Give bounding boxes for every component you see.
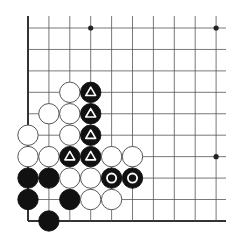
hoshi-dot-icon bbox=[88, 25, 93, 30]
black-stone-disc bbox=[60, 146, 80, 166]
white-stone-disc bbox=[18, 146, 38, 166]
black-stone bbox=[39, 168, 59, 188]
hoshi-dot-icon bbox=[214, 154, 219, 159]
black-stone bbox=[39, 211, 59, 231]
white-stone bbox=[60, 125, 80, 145]
white-stone-disc bbox=[101, 189, 121, 209]
stones-layer bbox=[18, 82, 143, 231]
black-stone bbox=[101, 168, 121, 188]
black-stone-disc bbox=[18, 168, 38, 188]
black-stone-disc bbox=[81, 82, 101, 102]
white-stone-disc bbox=[60, 125, 80, 145]
black-stone bbox=[18, 168, 38, 188]
white-stone bbox=[60, 104, 80, 124]
white-stone bbox=[81, 189, 101, 209]
white-stone-disc bbox=[81, 189, 101, 209]
white-stone-disc bbox=[122, 146, 142, 166]
black-stone-disc bbox=[122, 168, 142, 188]
black-stone-disc bbox=[81, 146, 101, 166]
black-stone bbox=[18, 189, 38, 209]
white-stone-disc bbox=[18, 125, 38, 145]
white-stone bbox=[60, 168, 80, 188]
black-stone-disc bbox=[18, 189, 38, 209]
white-stone-disc bbox=[101, 146, 121, 166]
white-stone-disc bbox=[39, 146, 59, 166]
black-stone-disc bbox=[39, 168, 59, 188]
go-board-diagram bbox=[0, 0, 241, 243]
white-stone bbox=[39, 146, 59, 166]
white-stone-disc bbox=[60, 82, 80, 102]
white-stone-disc bbox=[39, 104, 59, 124]
white-stone-disc bbox=[60, 104, 80, 124]
black-stone bbox=[60, 146, 80, 166]
hoshi-dot-icon bbox=[214, 25, 219, 30]
white-stone bbox=[60, 82, 80, 102]
black-stone bbox=[81, 125, 101, 145]
black-stone-disc bbox=[81, 125, 101, 145]
black-stone bbox=[81, 104, 101, 124]
white-stone-disc bbox=[81, 168, 101, 188]
black-stone-disc bbox=[101, 168, 121, 188]
black-stone bbox=[60, 189, 80, 209]
black-stone bbox=[81, 82, 101, 102]
white-stone bbox=[18, 125, 38, 145]
white-stone bbox=[81, 168, 101, 188]
white-stone bbox=[101, 146, 121, 166]
white-stone bbox=[39, 104, 59, 124]
black-stone-disc bbox=[39, 211, 59, 231]
black-stone-disc bbox=[81, 104, 101, 124]
white-stone-disc bbox=[60, 168, 80, 188]
black-stone-disc bbox=[60, 189, 80, 209]
black-stone bbox=[122, 168, 142, 188]
white-stone bbox=[18, 146, 38, 166]
black-stone bbox=[81, 146, 101, 166]
white-stone bbox=[122, 146, 142, 166]
white-stone bbox=[101, 189, 121, 209]
